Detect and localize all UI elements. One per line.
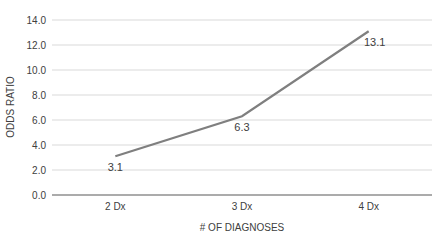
line-chart: 0.02.04.06.08.010.012.014.0 2 Dx3 Dx4 Dx…: [0, 0, 442, 243]
y-tick-label: 14.0: [27, 15, 47, 26]
x-tick-label: 4 Dx: [358, 201, 379, 212]
x-tick-label: 2 Dx: [105, 201, 126, 212]
data-label: 6.3: [234, 121, 249, 133]
y-tick-label: 10.0: [27, 65, 47, 76]
y-axis-title: ODDS RATIO: [5, 76, 16, 138]
data-labels: 3.16.313.1: [108, 36, 386, 173]
y-tick-label: 12.0: [27, 40, 47, 51]
data-label: 3.1: [108, 161, 123, 173]
x-axis-ticks: 2 Dx3 Dx4 Dx: [105, 201, 379, 212]
x-tick-label: 3 Dx: [232, 201, 253, 212]
y-tick-label: 2.0: [32, 165, 46, 176]
y-tick-label: 6.0: [32, 115, 46, 126]
y-tick-label: 8.0: [32, 90, 46, 101]
data-label: 13.1: [364, 36, 385, 48]
y-tick-label: 0.0: [32, 190, 46, 201]
y-axis-ticks: 0.02.04.06.08.010.012.014.0: [27, 15, 47, 201]
series-line: [115, 31, 368, 156]
y-tick-label: 4.0: [32, 140, 46, 151]
x-axis-title: # OF DIAGNOSES: [200, 222, 285, 233]
